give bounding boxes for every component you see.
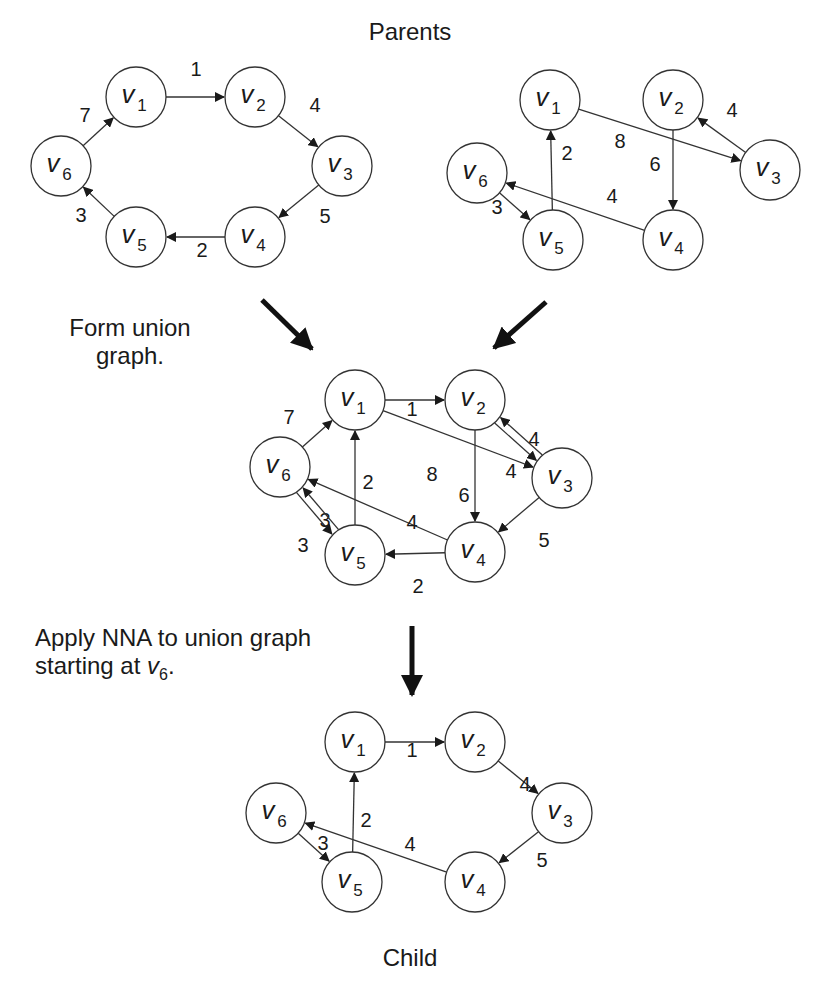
- edge-weight-v3-v2: 4: [726, 99, 737, 121]
- svg-text:5: 5: [353, 881, 362, 900]
- edge-weight-v5-v1: 2: [362, 471, 373, 493]
- graph-child: 145423v1v2v3v4v5v6: [246, 712, 592, 912]
- svg-text:5: 5: [137, 236, 146, 255]
- edge-weight-v3-v4: 5: [536, 849, 547, 871]
- node-v3: v3: [532, 783, 592, 843]
- svg-text:5: 5: [356, 554, 365, 573]
- nna-step-suffix: .: [168, 652, 175, 679]
- svg-text:4: 4: [674, 239, 683, 258]
- svg-text:1: 1: [137, 96, 146, 115]
- union-step-line1: Form union: [50, 314, 210, 342]
- nna-step-var: v: [147, 652, 159, 679]
- svg-text:3: 3: [563, 477, 572, 496]
- svg-text:1: 1: [356, 399, 365, 418]
- node-v5: v5: [325, 525, 385, 585]
- edge-weight-v4-v6: 4: [406, 511, 417, 533]
- node-v6: v6: [447, 143, 507, 203]
- union-step-line2: graph.: [50, 342, 210, 370]
- svg-text:v: v: [122, 219, 137, 249]
- edge-weight-v6-v1: 7: [79, 104, 90, 126]
- node-v4: v4: [445, 522, 505, 582]
- graphs: 145237v1v2v3v4v5v6846423v1v2v3v4v5v61448…: [31, 58, 800, 912]
- svg-text:v: v: [548, 460, 563, 490]
- svg-text:1: 1: [356, 741, 365, 760]
- svg-text:v: v: [122, 79, 137, 109]
- svg-text:v: v: [338, 864, 353, 894]
- edge-v3-v2: [698, 118, 746, 152]
- node-v4: v4: [445, 852, 505, 912]
- svg-text:v: v: [461, 724, 476, 754]
- edge-weight-v4-v5: 2: [196, 239, 207, 261]
- svg-text:v: v: [262, 795, 277, 825]
- node-v2: v2: [643, 70, 703, 130]
- node-v1: v1: [106, 67, 166, 127]
- svg-text:v: v: [241, 79, 256, 109]
- node-v2: v2: [225, 67, 285, 127]
- svg-text:v: v: [241, 219, 256, 249]
- edge-weight-v1-v2: 1: [190, 58, 201, 80]
- edge-weight-v4-v5: 2: [412, 575, 423, 597]
- node-v1: v1: [520, 70, 580, 130]
- edge-weight-v5-v1: 2: [360, 809, 371, 831]
- edge-weight-v3-v4: 5: [538, 529, 549, 551]
- svg-text:4: 4: [476, 551, 485, 570]
- node-v3: v3: [312, 136, 372, 196]
- svg-text:v: v: [341, 724, 356, 754]
- svg-text:v: v: [461, 864, 476, 894]
- svg-text:6: 6: [62, 165, 71, 184]
- edge-weight-v1-v3: 8: [614, 130, 625, 152]
- edge-weight-v5-v1: 2: [561, 142, 572, 164]
- edge-v4-v5: [386, 553, 445, 554]
- svg-text:5: 5: [554, 239, 563, 258]
- node-v4: v4: [225, 207, 285, 267]
- svg-text:4: 4: [476, 881, 485, 900]
- svg-text:v: v: [461, 534, 476, 564]
- edge-weight-v2-v4: 6: [649, 153, 660, 175]
- edge-weight-v3-v2: 4: [505, 460, 516, 482]
- svg-text:2: 2: [256, 96, 265, 115]
- node-v2: v2: [445, 712, 505, 772]
- node-v5: v5: [523, 210, 583, 270]
- svg-text:v: v: [756, 152, 771, 182]
- edge-weight-v6-v1: 7: [283, 406, 294, 428]
- node-v2: v2: [445, 370, 505, 430]
- svg-text:v: v: [539, 222, 554, 252]
- nna-step-label: Apply NNA to union graph starting at v6.: [35, 624, 311, 689]
- edge-weight-v2-v3: 4: [519, 773, 530, 795]
- node-v5: v5: [106, 207, 166, 267]
- svg-text:2: 2: [476, 399, 485, 418]
- edge-weight-v4-v6: 4: [404, 833, 415, 855]
- svg-text:v: v: [463, 155, 478, 185]
- edge-v2-v3: [279, 116, 318, 147]
- svg-text:v: v: [536, 82, 551, 112]
- svg-text:v: v: [548, 795, 563, 825]
- union-step-label: Form union graph.: [50, 314, 210, 370]
- edge-weight-v6-v5: 3: [319, 509, 330, 531]
- edge-weight-v5-v6: 3: [75, 204, 86, 226]
- nna-step-sub: 6: [159, 666, 168, 683]
- svg-text:6: 6: [478, 172, 487, 191]
- nna-step-prefix: starting at: [35, 652, 147, 679]
- svg-text:v: v: [341, 537, 356, 567]
- graph-parent-1: 145237v1v2v3v4v5v6: [31, 58, 372, 267]
- node-v3: v3: [740, 140, 800, 200]
- svg-text:3: 3: [343, 165, 352, 184]
- edge-v3-v4: [499, 497, 540, 531]
- svg-text:v: v: [266, 449, 281, 479]
- svg-text:1: 1: [551, 99, 560, 118]
- svg-text:v: v: [659, 82, 674, 112]
- node-v3: v3: [532, 448, 592, 508]
- edge-weight-v6-v5: 3: [317, 832, 328, 854]
- flow-arrow-parent2-to-union: [494, 302, 546, 348]
- diagram-canvas: 145237v1v2v3v4v5v6846423v1v2v3v4v5v61448…: [0, 0, 822, 991]
- child-title: Child: [370, 944, 450, 972]
- edge-weight-v3-v4: 5: [319, 205, 330, 227]
- svg-text:3: 3: [563, 812, 572, 831]
- svg-text:v: v: [461, 382, 476, 412]
- edge-weight-v6-v5: 3: [491, 196, 502, 218]
- svg-text:6: 6: [281, 466, 290, 485]
- svg-text:v: v: [47, 148, 62, 178]
- edge-weight-v2-v4: 6: [458, 484, 469, 506]
- edge-weight-v4-v6: 4: [606, 185, 617, 207]
- edge-v6-v5: [500, 193, 530, 220]
